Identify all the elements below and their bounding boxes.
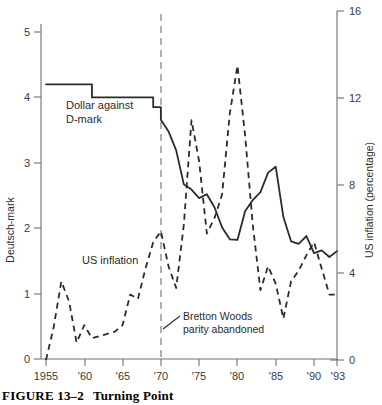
x-tick-70: '70 xyxy=(154,370,168,382)
right-tick-8: 8 xyxy=(349,179,355,191)
x-tick-60: '60 xyxy=(78,370,92,382)
right-tick-16: 16 xyxy=(349,5,361,17)
x-tick-80: '80 xyxy=(230,370,244,382)
x-tick-1955: 1955 xyxy=(34,370,58,382)
chart-canvas: 5 4 3 2 1 0 Deutsch-mark 16 12 8 4 0 US … xyxy=(0,0,382,405)
annotation-line-1: Bretton Woods xyxy=(183,310,252,322)
dollar-series-label-line2: D-mark xyxy=(66,113,103,125)
chart-background xyxy=(0,0,382,405)
right-axis-title: US inflation (percentage) xyxy=(363,142,375,258)
left-tick-0: 0 xyxy=(24,353,30,365)
annotation-line-2: parity abandoned xyxy=(183,323,264,335)
dollar-series-label-line1: Dollar against xyxy=(66,99,133,111)
left-tick-5: 5 xyxy=(24,26,30,38)
x-tick-85: '85 xyxy=(269,370,283,382)
x-tick-93: '93 xyxy=(331,370,345,382)
left-tick-1: 1 xyxy=(24,288,30,300)
left-tick-2: 2 xyxy=(24,222,30,234)
x-tick-65: '65 xyxy=(116,370,130,382)
left-tick-4: 4 xyxy=(24,91,30,103)
figure-caption-number: FIGURE 13–2 xyxy=(2,388,84,403)
left-tick-3: 3 xyxy=(24,157,30,169)
right-tick-12: 12 xyxy=(349,92,361,104)
x-tick-90: '90 xyxy=(307,370,321,382)
right-tick-0: 0 xyxy=(349,354,355,366)
x-tick-75: '75 xyxy=(192,370,206,382)
figure-caption: FIGURE 13–2Turning Point xyxy=(2,388,174,404)
figure-container: 5 4 3 2 1 0 Deutsch-mark 16 12 8 4 0 US … xyxy=(0,0,382,405)
inflation-series-label: US inflation xyxy=(82,254,138,266)
figure-caption-title: Turning Point xyxy=(93,388,174,403)
right-tick-4: 4 xyxy=(349,267,355,279)
left-axis-title: Deutsch-mark xyxy=(4,197,16,263)
